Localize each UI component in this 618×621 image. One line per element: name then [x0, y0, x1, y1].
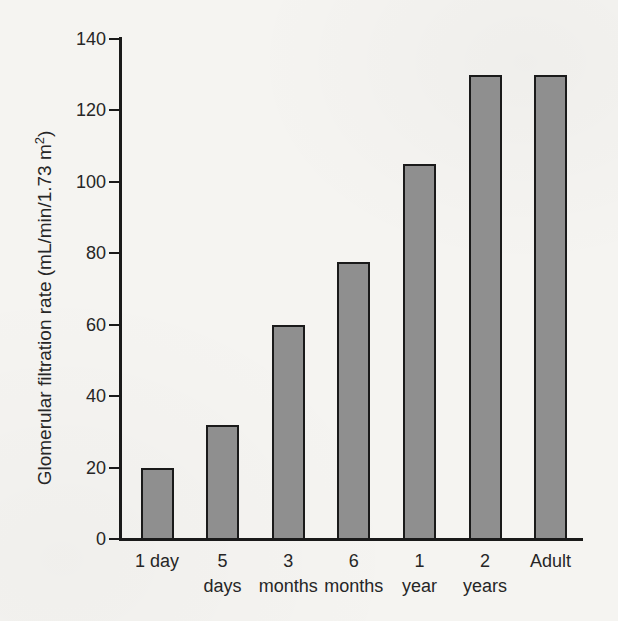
y-axis-tick-40 — [109, 395, 119, 397]
x-axis-line — [119, 538, 583, 541]
x-axis-tick-label-2-years-line-2: years — [440, 574, 530, 599]
y-axis-tick-20 — [109, 467, 119, 469]
y-axis-tick-label-120: 120 — [40, 100, 106, 120]
x-axis-tick-label-adult-line-1: Adult — [506, 549, 596, 574]
bar-1-year — [403, 164, 436, 541]
y-axis-tick-60 — [109, 324, 119, 326]
bar-2-years — [469, 75, 502, 541]
y-axis-tick-120 — [109, 109, 119, 111]
bar-3-months — [272, 325, 305, 541]
y-axis-tick-label-140: 140 — [40, 29, 106, 49]
y-axis-tick-label-40: 40 — [40, 386, 106, 406]
y-axis-tick-140 — [109, 38, 119, 40]
bar-adult — [534, 75, 567, 541]
y-axis-tick-label-100: 100 — [40, 172, 106, 192]
bar-5-days — [206, 425, 239, 541]
y-axis-tick-label-0: 0 — [40, 529, 106, 549]
y-axis-line — [119, 37, 122, 541]
y-axis-tick-label-80: 80 — [40, 243, 106, 263]
bar-1-day — [141, 468, 174, 541]
scanned-figure-page: Glomerular filtration rate (mL/min/1.73 … — [0, 0, 618, 621]
y-axis-tick-100 — [109, 181, 119, 183]
y-axis-title-suffix: ) — [34, 131, 55, 137]
y-axis-tick-label-20: 20 — [40, 458, 106, 478]
y-axis-tick-0 — [109, 538, 119, 540]
y-axis-tick-80 — [109, 252, 119, 254]
y-axis-title-superscript: 2 — [32, 137, 47, 144]
y-axis-title: Glomerular filtration rate (mL/min/1.73 … — [28, 58, 52, 558]
gfr-bar-chart: Glomerular filtration rate (mL/min/1.73 … — [0, 0, 618, 621]
y-axis-tick-label-60: 60 — [40, 315, 106, 335]
x-axis-tick-label-adult: Adult — [506, 549, 596, 574]
bar-6-months — [337, 262, 370, 541]
